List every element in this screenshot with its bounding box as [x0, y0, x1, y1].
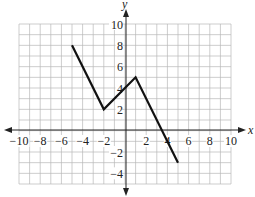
x-tick-label: −4	[76, 134, 89, 148]
y-tick-label: 2	[117, 103, 123, 117]
x-axis-right-arrow-icon	[238, 127, 246, 133]
x-tick-label: −10	[10, 134, 29, 148]
y-tick-label: 10	[111, 18, 123, 32]
x-tick-label: −2	[97, 134, 110, 148]
y-tick-label: −2	[110, 146, 123, 160]
y-tick-label: 8	[117, 39, 123, 53]
x-axis-label: x	[247, 123, 254, 137]
x-tick-label: 2	[143, 134, 149, 148]
x-tick-label: 10	[225, 134, 237, 148]
y-axis-label: y	[121, 0, 128, 11]
x-tick-label: 8	[207, 134, 213, 148]
grid-lines	[19, 24, 231, 184]
tick-labels: −10−8−6−4−2246810108642−2−4	[9, 18, 239, 181]
x-axis-left-arrow-icon	[4, 127, 12, 133]
y-tick-label: −4	[110, 167, 123, 181]
x-tick-label: 6	[186, 134, 192, 148]
x-tick-label: −8	[34, 134, 47, 148]
y-axis-down-arrow-icon	[123, 188, 129, 196]
x-tick-label: −6	[55, 134, 68, 148]
coordinate-plane: −10−8−6−4−2246810108642−2−4 x y	[0, 0, 255, 197]
y-tick-label: 6	[117, 60, 123, 74]
